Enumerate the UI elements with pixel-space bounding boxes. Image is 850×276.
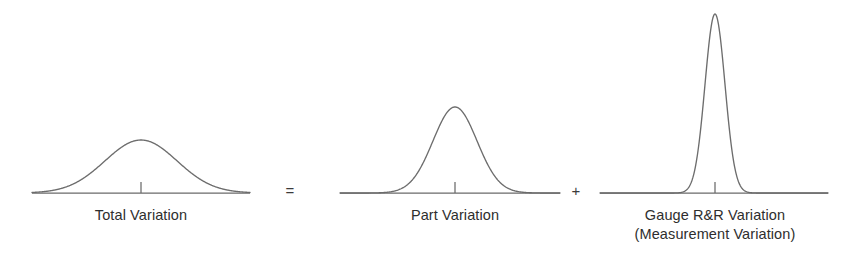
gauge-rr-variation-curve — [600, 14, 828, 193]
gauge-rr-variation-plot — [600, 14, 828, 193]
plus-operator: + — [558, 183, 594, 198]
total-variation-label-line1: Total Variation — [31, 206, 251, 225]
total-variation-label: Total Variation — [31, 206, 251, 225]
gauge-rr-variation-label-line2: (Measurement Variation) — [605, 225, 825, 244]
gauge-rr-variation-label: Gauge R&R Variation (Measurement Variati… — [605, 206, 825, 244]
total-variation-plot — [32, 140, 250, 193]
part-variation-label-line1: Part Variation — [345, 206, 565, 225]
part-variation-curve — [340, 107, 560, 193]
part-variation-plot — [340, 107, 560, 193]
gauge-rr-variation-label-line1: Gauge R&R Variation — [605, 206, 825, 225]
equals-operator: = — [272, 183, 308, 198]
part-variation-label: Part Variation — [345, 206, 565, 225]
diagram-canvas: = + Total Variation Part Variation Gauge… — [0, 0, 850, 276]
